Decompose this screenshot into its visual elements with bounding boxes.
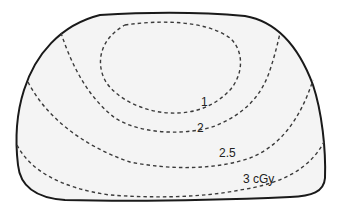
contour-2-label: 2 [197,121,204,135]
contour-2-5-label: 2.5 [219,146,236,160]
contour-3-label: 3 cGy [243,172,274,186]
contour-1-label: 1 [201,95,208,109]
isodose-diagram: 1 2 2.5 3 cGy [0,0,342,214]
body-outline [16,13,325,201]
